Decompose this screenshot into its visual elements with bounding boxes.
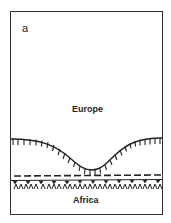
dashed-line xyxy=(14,175,162,176)
chevron-row xyxy=(14,184,162,189)
toothed-line xyxy=(11,180,162,185)
hatched-boundary-curve xyxy=(11,138,162,175)
cross-section-diagram xyxy=(0,0,171,223)
